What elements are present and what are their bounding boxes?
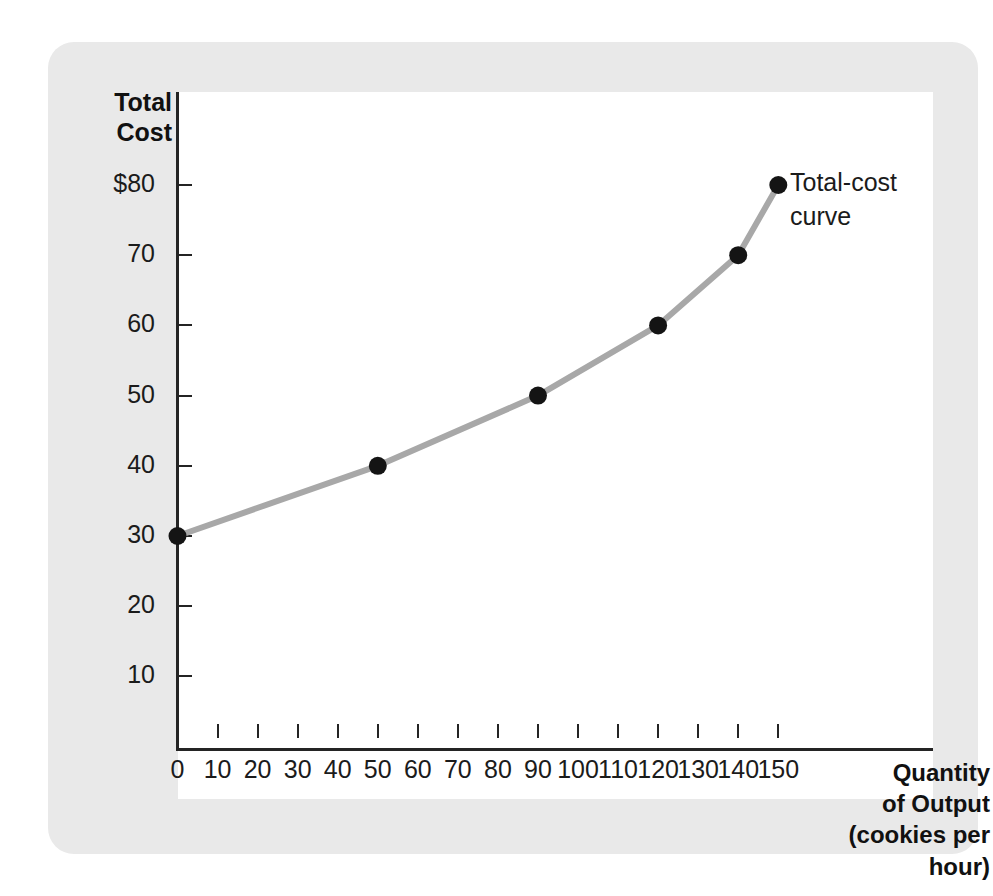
y-axis-title: Total Cost xyxy=(60,88,172,147)
x-tick-mark xyxy=(377,724,379,738)
y-tick-mark xyxy=(179,465,192,467)
x-tick-mark xyxy=(737,724,739,738)
y-tick-mark xyxy=(179,324,192,326)
curve-label: Total-cost curve xyxy=(790,166,960,234)
y-tick-label: $80 xyxy=(35,169,155,198)
y-tick-label: 50 xyxy=(35,380,155,409)
x-tick-mark xyxy=(777,724,779,738)
y-tick-mark xyxy=(179,184,192,186)
y-tick-mark xyxy=(179,395,192,397)
y-tick-label: 30 xyxy=(35,520,155,549)
x-tick-mark xyxy=(217,724,219,738)
x-axis-line xyxy=(176,748,933,751)
x-tick-mark xyxy=(697,724,699,738)
y-tick-label: 20 xyxy=(35,590,155,619)
x-tick-mark xyxy=(417,724,419,738)
y-tick-mark xyxy=(179,254,192,256)
x-tick-mark xyxy=(577,724,579,738)
x-tick-mark xyxy=(497,724,499,738)
x-tick-mark xyxy=(657,724,659,738)
x-tick-mark xyxy=(617,724,619,738)
x-tick-mark xyxy=(537,724,539,738)
y-tick-mark xyxy=(179,535,192,537)
y-axis-line xyxy=(176,92,179,751)
y-tick-mark xyxy=(179,675,192,677)
x-tick-mark xyxy=(297,724,299,738)
figure-card xyxy=(48,42,978,854)
y-tick-label: 60 xyxy=(35,309,155,338)
x-axis-title: Quantity of Output (cookies per hour) xyxy=(820,757,990,882)
y-tick-label: 40 xyxy=(35,450,155,479)
y-tick-mark xyxy=(179,605,192,607)
x-tick-mark xyxy=(257,724,259,738)
x-tick-label: 150 xyxy=(748,755,808,784)
y-tick-label: 10 xyxy=(35,660,155,689)
y-tick-label: 70 xyxy=(35,239,155,268)
x-tick-mark xyxy=(337,724,339,738)
x-tick-mark xyxy=(457,724,459,738)
